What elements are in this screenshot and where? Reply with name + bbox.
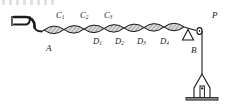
vibrating-string-loops xyxy=(42,23,196,33)
pulley-icon xyxy=(197,28,202,35)
label-node-c2: C2 xyxy=(80,11,88,20)
label-node-d2: D2 xyxy=(115,37,124,46)
label-node-d4: D4 xyxy=(160,37,169,46)
label-node-c1: C1 xyxy=(56,11,64,20)
label-node-c3: C3 xyxy=(104,11,112,20)
label-segment-b: B xyxy=(191,46,197,55)
label-node-d3: D3 xyxy=(137,37,146,46)
triangular-support-icon xyxy=(183,30,194,41)
physics-diagram: C1 C2 C3 D1 D2 D3 D4 A P B xyxy=(0,0,230,105)
label-source-a: A xyxy=(46,44,52,53)
label-node-d1: D1 xyxy=(93,37,102,46)
tuning-fork-icon xyxy=(12,16,42,32)
base-stand xyxy=(186,98,218,101)
weight-hanger-icon xyxy=(194,74,210,98)
label-pulley-p: P xyxy=(212,11,218,20)
